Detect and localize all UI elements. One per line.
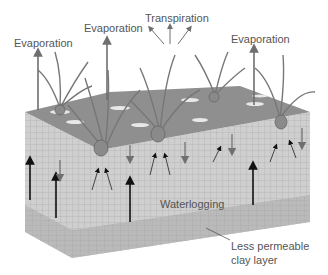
label-clay-line2: clay layer: [231, 254, 277, 266]
label-waterlogging: Waterlogging: [160, 198, 224, 210]
label-evaporation-mid: Evaporation: [84, 22, 143, 34]
label-clay-line1: Less permeable: [231, 240, 309, 252]
label-evaporation-right: Evaporation: [231, 33, 290, 45]
label-evaporation-left: Evaporation: [14, 37, 73, 49]
label-transpiration: Transpiration: [145, 12, 209, 24]
transpiration-arrows: [150, 26, 190, 44]
